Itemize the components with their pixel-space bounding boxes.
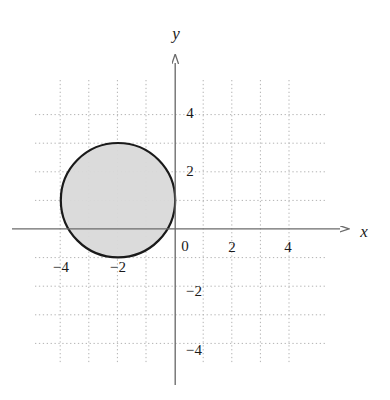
shaded-circle-region: [61, 143, 175, 257]
origin-label: 0: [181, 239, 189, 254]
y-tick-label-pos4: 4: [186, 106, 194, 121]
y-tick-label-neg2: −2: [186, 284, 202, 299]
axes: [12, 63, 340, 385]
y-tick-label-pos2: 2: [186, 164, 194, 179]
graph-figure: −4 −2 2 4 4 2 −2 −4 0 x y: [0, 0, 390, 400]
y-axis-label: y: [172, 25, 180, 42]
coordinate-plane: [0, 0, 390, 400]
x-tick-label-pos2: 2: [228, 240, 236, 255]
x-tick-label-pos4: 4: [284, 240, 292, 255]
x-tick-label-neg4: −4: [53, 260, 69, 275]
x-tick-label-neg2: −2: [110, 260, 126, 275]
y-tick-label-neg4: −4: [186, 343, 202, 358]
x-axis-label: x: [360, 223, 368, 240]
